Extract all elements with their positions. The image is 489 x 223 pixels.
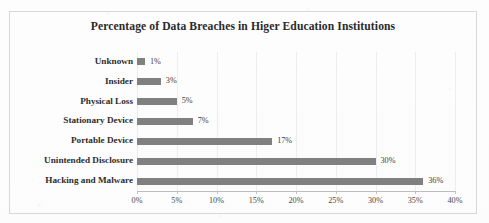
x-tick-mark bbox=[217, 191, 218, 194]
chart-page: Percentage of Data Breaches in Higer Edu… bbox=[0, 0, 489, 223]
x-tick-mark bbox=[455, 191, 456, 194]
x-tick-label: 0% bbox=[117, 196, 157, 205]
bar bbox=[137, 98, 177, 105]
x-tick-label: 20% bbox=[276, 196, 316, 205]
bar-value-label: 5% bbox=[182, 96, 193, 105]
bar-value-label: 36% bbox=[428, 176, 443, 185]
x-tick-label: 25% bbox=[316, 196, 356, 205]
x-tick-mark bbox=[256, 191, 257, 194]
category-label: Insider bbox=[0, 76, 133, 86]
x-tick-label: 15% bbox=[236, 196, 276, 205]
x-tick-mark bbox=[376, 191, 377, 194]
category-label: Stationary Device bbox=[0, 115, 133, 125]
bar bbox=[137, 138, 272, 145]
category-label: Portable Device bbox=[0, 135, 133, 145]
x-tick-mark bbox=[336, 191, 337, 194]
x-tick-mark bbox=[177, 191, 178, 194]
x-tick-label: 30% bbox=[356, 196, 396, 205]
bar-value-label: 1% bbox=[150, 57, 161, 66]
x-tick-mark bbox=[415, 191, 416, 194]
bar-value-label: 17% bbox=[277, 136, 292, 145]
category-label: Unintended Disclosure bbox=[0, 155, 133, 165]
x-tick-label: 35% bbox=[395, 196, 435, 205]
x-tick-mark bbox=[296, 191, 297, 194]
bar bbox=[137, 178, 423, 185]
chart-title: Percentage of Data Breaches in Higer Edu… bbox=[10, 20, 476, 33]
bar bbox=[137, 118, 193, 125]
bar-value-label: 30% bbox=[381, 156, 396, 165]
x-tick-label: 5% bbox=[157, 196, 197, 205]
category-label: Hacking and Malware bbox=[0, 175, 133, 185]
category-label: Unknown bbox=[0, 56, 133, 66]
bar bbox=[137, 78, 161, 85]
x-tick-mark bbox=[137, 191, 138, 194]
category-label: Physical Loss bbox=[0, 96, 133, 106]
bar bbox=[137, 158, 376, 165]
bar-value-label: 3% bbox=[166, 76, 177, 85]
x-tick-label: 10% bbox=[197, 196, 237, 205]
bar-value-label: 7% bbox=[198, 116, 209, 125]
x-tick-label: 40% bbox=[435, 196, 475, 205]
bar bbox=[137, 58, 145, 65]
